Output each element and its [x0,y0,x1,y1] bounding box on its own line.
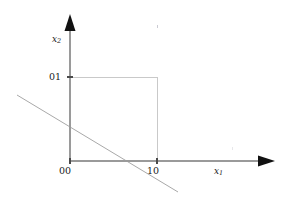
y-axis-arrow-icon [65,14,76,31]
y-axis-tick-label-10: 01 [49,72,61,82]
plot-figure: 01 00 10 x1 x2 [0,0,284,204]
constraint-line [17,95,178,192]
feasible-box-outline [70,77,157,161]
plot-canvas [0,0,284,204]
speck-artifact [157,25,158,28]
x-axis-name-label: x1 [214,167,223,177]
speck-artifact [232,147,233,150]
x-axis-arrow-icon [258,156,275,167]
x-axis-name-subscript: 1 [219,169,223,177]
x-axis-tick-label-10: 10 [147,166,159,176]
y-axis-name-label: x2 [52,35,61,45]
feasible-box [70,77,157,161]
x-axis-tick-label-0: 00 [59,166,71,176]
y-axis-name-subscript: 2 [57,37,61,45]
